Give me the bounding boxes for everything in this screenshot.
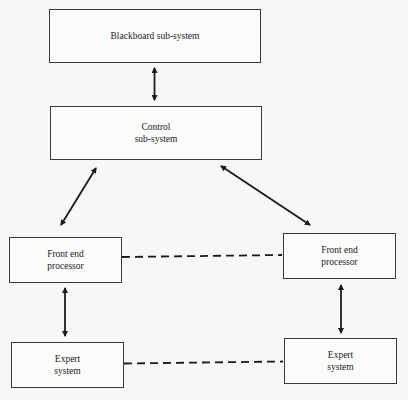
node-blackboard-subsystem: Blackboard sub-system: [49, 9, 261, 63]
node-label: Expert system: [327, 349, 353, 374]
node-label: Front end processor: [47, 248, 84, 273]
edge-expert-left-expert-right-dashed: [124, 362, 283, 364]
node-label: Blackboard sub-system: [111, 30, 200, 43]
node-front-end-processor-left: Front end processor: [9, 237, 122, 283]
node-control-subsystem: Control sub-system: [50, 106, 262, 160]
node-label: Front end processor: [321, 244, 358, 269]
edge-fep-left-fep-right-dashed: [122, 255, 282, 257]
node-expert-system-right: Expert system: [284, 338, 397, 384]
edge-control-fep-right: [221, 166, 310, 225]
node-label: Control sub-system: [135, 121, 178, 146]
node-label: Expert system: [54, 353, 80, 378]
node-front-end-processor-right: Front end processor: [283, 233, 396, 279]
edge-control-fep-left: [61, 168, 96, 225]
node-expert-system-left: Expert system: [11, 342, 124, 388]
